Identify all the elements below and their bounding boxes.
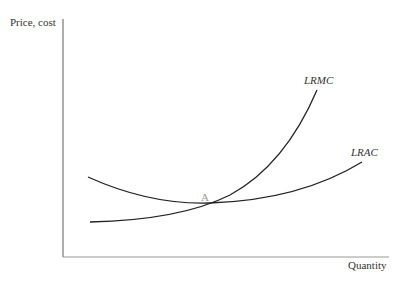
y-axis-label: Price, cost [10,16,56,28]
point-a-label: A [201,191,209,203]
cost-diagram [0,0,406,286]
lrmc-label: LRMC [304,74,333,86]
lrac-label: LRAC [351,146,378,158]
x-axis-label: Quantity [348,259,387,271]
